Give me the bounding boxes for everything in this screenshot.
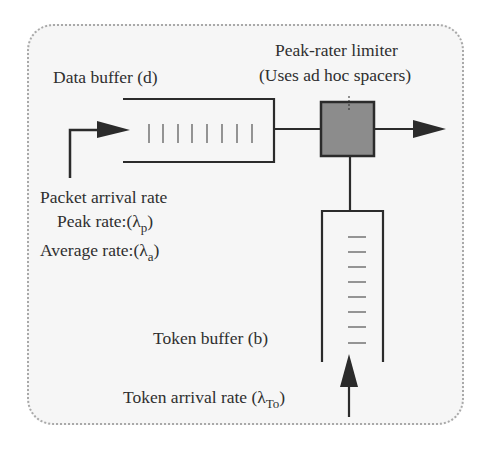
average-rate-label: Average rate:(λa) — [40, 242, 159, 260]
data-buffer — [123, 99, 274, 162]
data-buffer-label: Data buffer (d) — [53, 69, 158, 87]
peak-rate-label: Peak rate:(λp) — [57, 213, 153, 231]
average-rate-prefix: Average rate:(λ — [40, 240, 148, 260]
token-buffer — [322, 211, 383, 362]
token-arrival-prefix: Token arrival rate (λ — [123, 387, 266, 407]
token-arrival-suffix: ) — [279, 387, 285, 407]
output-arrow — [374, 120, 446, 138]
token-arrival-label: Token arrival rate (λTo) — [123, 389, 285, 407]
packet-input-arrow — [70, 121, 130, 178]
peak-rate-prefix: Peak rate:(λ — [57, 211, 141, 231]
average-rate-subscript: a — [148, 249, 154, 264]
token-arrival-subscript: To — [266, 396, 280, 411]
average-rate-suffix: ) — [154, 240, 160, 260]
peak-rate-suffix: ) — [147, 211, 153, 231]
token-buffer-tokens — [348, 237, 366, 343]
data-buffer-packets — [149, 124, 252, 143]
token-input-arrow — [340, 354, 358, 417]
limiter-label-line1: Peak-rater limiter — [275, 42, 398, 60]
token-buffer-label: Token buffer (b) — [153, 330, 268, 348]
packet-arrival-label: Packet arrival rate — [40, 189, 167, 207]
limiter-label-line2: (Uses ad hoc spacers) — [259, 67, 411, 85]
peak-rate-limiter-box — [321, 96, 374, 156]
peak-rate-subscript: p — [141, 220, 148, 235]
